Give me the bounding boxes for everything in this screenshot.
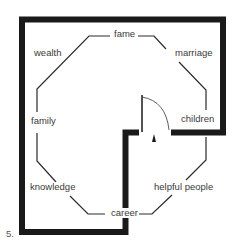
label-family: family [30,116,57,126]
bagua-segment [186,137,206,180]
bagua-segment [70,196,105,214]
door-swing-arc [142,97,169,130]
figure-number: 5. [6,228,14,239]
label-helpful-people: helpful people [153,182,214,192]
bagua-segment [139,195,172,214]
label-knowledge: knowledge [29,182,76,192]
label-marriage: marriage [174,48,214,58]
label-wealth: wealth [33,48,62,58]
bagua-segment [179,62,206,110]
label-children: children [180,114,215,124]
bagua-segment [37,133,56,182]
label-career: career [110,208,139,218]
label-fame: fame [113,29,136,39]
bagua-segment [138,36,166,49]
entry-arrow-icon [152,134,156,142]
